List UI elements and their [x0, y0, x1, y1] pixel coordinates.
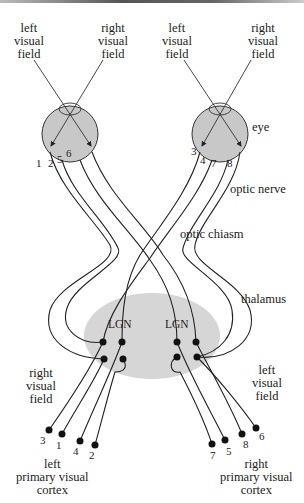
cortex-number: 3 [40, 435, 46, 446]
left-visual-field-label: left visual field [252, 364, 282, 403]
right-eye-left-visual-field-label: left visual field [162, 22, 192, 61]
lgn-right-label: LGN [165, 318, 189, 331]
visual-pathway-diagram [0, 0, 304, 503]
thalamus-label: thalamus [241, 293, 286, 306]
cortex-terminal [222, 437, 229, 444]
right-eye-right-visual-field-label: right visual field [248, 22, 278, 61]
optic-nerve-label: optic nerve [230, 183, 286, 196]
cortex-number: 4 [73, 446, 79, 457]
fiber-number: 1 [36, 158, 42, 169]
optic-chiasm-label: optic chiasm [180, 228, 244, 241]
cortex-terminal [77, 438, 84, 445]
cortex-number: 8 [243, 439, 249, 450]
fiber-number: 5 [57, 154, 63, 165]
lgn-left-neuron [100, 339, 107, 346]
cortex-number: 7 [210, 450, 216, 461]
lgn-right-neuron [193, 339, 200, 346]
cortex-number: 6 [259, 431, 265, 442]
fiber-number: 2 [48, 158, 54, 169]
fiber-number: 4 [200, 155, 206, 166]
fiber-number: 7 [211, 158, 217, 169]
cortex-number: 2 [89, 450, 95, 461]
lgn-right-neuron [174, 354, 181, 361]
cortex-terminal [239, 431, 246, 438]
left-eye-left-visual-field-label: left visual field [14, 22, 44, 61]
cortex-number: 1 [56, 440, 62, 451]
fiber-number: 8 [227, 158, 233, 169]
cortex-terminal [209, 441, 216, 448]
lgn-left-label: LGN [108, 318, 132, 331]
right-visual-field-label: right visual field [26, 367, 56, 406]
fiber-number: 3 [191, 146, 197, 157]
lgn-left-neuron [119, 339, 126, 346]
cortex-number: 5 [226, 446, 232, 457]
right-primary-visual-cortex-label: right primary visual cortex [220, 458, 293, 497]
fiber-number: 6 [66, 148, 72, 159]
eye-label: eye [252, 121, 269, 134]
left-primary-visual-cortex-label: left primary visual cortex [16, 458, 89, 497]
cortex-terminal [46, 427, 53, 434]
cortex-terminal [59, 431, 66, 438]
lgn-left-neuron [101, 356, 108, 363]
lgn-left-neuron [120, 356, 127, 363]
left-eye-right-visual-field-label: right visual field [98, 22, 128, 61]
lgn-right-neuron [194, 354, 201, 361]
lgn-right-neuron [174, 339, 181, 346]
cortex-terminal [92, 442, 99, 449]
